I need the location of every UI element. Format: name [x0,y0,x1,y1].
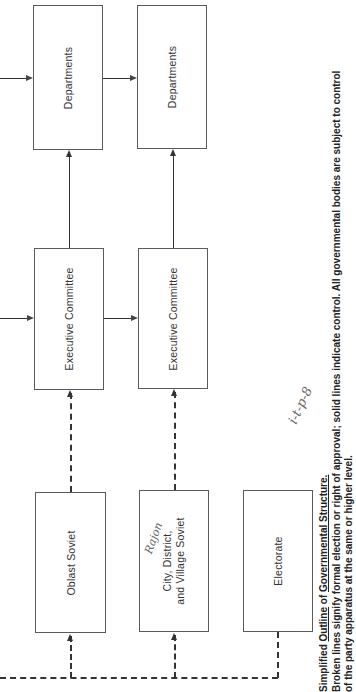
dashed-line-city-to-exec [174,392,176,490]
caption-line-3: of the party apparatus at the same or hi… [343,0,356,692]
arrowhead-icon [131,315,138,321]
dashed-line-electorate-to-bus [277,632,279,678]
caption-line-2: Broken lines signify formal election or … [331,0,344,692]
handwritten-margin-note: i-t-p-8 [285,385,315,427]
solid-line-offpage-to-departments [0,78,27,79]
arrowhead-icon [27,315,34,321]
arrowhead-icon [66,150,72,157]
electorate-label: Electorate [272,536,285,585]
dashed-bus-electorate [0,677,278,679]
dashed-line-bus-to-city [174,635,176,678]
solid-line-exec-lower-to-departments-lower [173,151,174,248]
arrowhead-icon [67,390,73,397]
departments-lower-label: Departments [166,46,179,108]
executive-committee-lower-box: Executive Committee [138,248,208,389]
departments-upper-box: Departments [33,5,103,150]
oblast-soviet-box: Oblast Soviet [35,492,106,633]
caption-title: Simplified Outline of Governmental Struc… [318,0,331,692]
executive-committee-upper-label: Executive Committee [63,267,76,370]
figure-caption: Simplified Outline of Governmental Struc… [318,0,356,692]
arrowhead-icon [170,149,176,156]
executive-committee-lower-label: Executive Committee [167,267,180,370]
arrowhead-icon [171,389,177,396]
departments-lower-box: Departments [137,5,207,149]
arrowhead-icon [171,633,177,640]
dashed-line-oblast-to-exec [70,393,72,492]
city-soviet-line2: and Village Soviet [174,517,186,604]
city-district-village-soviet-label: City, District, and Village Soviet [161,517,187,604]
oblast-soviet-label: Oblast Soviet [64,530,77,595]
executive-committee-upper-box: Executive Committee [34,248,104,390]
dashed-line-bus-to-oblast [70,636,72,678]
solid-line-exec-upper-to-departments-upper [69,152,70,248]
city-district-village-soviet-box: City, District, and Village Soviet Rajon [139,490,209,632]
city-soviet-line1: City, District, [161,530,173,591]
solid-line-offpage-to-exec [0,318,28,319]
departments-upper-label: Departments [62,46,75,108]
arrowhead-icon [67,634,73,641]
electorate-box: Electorate [243,490,313,632]
solid-line-exec-to-exec [104,318,132,319]
solid-line-departments-to-departments [103,78,131,79]
arrowhead-icon [130,75,137,81]
arrowhead-icon [26,75,33,81]
